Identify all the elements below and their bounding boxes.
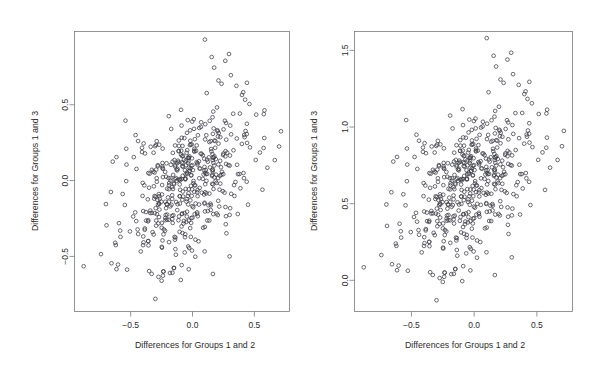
data-points-left [82,38,283,301]
data-point [149,145,153,149]
data-point [562,129,566,133]
data-point [262,112,266,116]
data-point [258,151,262,155]
data-point [464,252,468,256]
x-axis-ticks-left [131,312,255,317]
data-point [464,136,468,140]
data-point [478,133,482,137]
data-point [495,146,499,150]
data-point [544,146,548,150]
data-point [485,36,489,40]
x-tick-label: 0.5 [248,320,260,330]
data-point [167,114,171,118]
data-point [188,139,192,143]
data-point [201,177,205,181]
plot-frame-left [75,32,290,312]
data-point [188,226,192,230]
data-point [124,179,128,183]
data-point [507,232,511,236]
data-point [493,115,497,119]
data-point [238,112,242,116]
y-tick-label: 0.5 [60,99,70,111]
data-point [111,160,115,164]
data-point [395,244,399,248]
data-point [490,118,494,122]
data-point [235,137,239,141]
y-axis-ticks-right [350,50,355,280]
data-point [234,180,238,184]
data-point [435,207,439,211]
data-point [180,124,184,128]
data-point [134,219,138,223]
data-point [517,83,521,87]
data-point [537,112,541,116]
data-point [441,280,445,284]
data-point [142,142,146,146]
data-point [417,228,421,232]
data-point [125,268,129,272]
data-point [203,138,207,142]
data-point [530,101,534,105]
data-point [493,132,497,136]
data-point [461,123,465,127]
y-axis-title-left: Differences for Groups 1 and 3 [30,111,40,231]
scatter-panel-right: −0.50.00.5 0.00.51.01.5 Differences for … [295,0,590,377]
data-point [435,224,439,228]
data-point [436,180,440,184]
data-point [161,274,165,278]
scatter-plot-left: −0.50.00.5 −0.50.00.5 Differences for Gr… [0,0,295,377]
data-point [225,231,229,235]
data-point [545,136,549,140]
data-point [228,206,232,210]
data-point [235,84,239,88]
data-point [203,165,207,169]
data-point [516,180,520,184]
data-point [197,239,201,243]
data-point [134,133,138,137]
data-point [545,108,549,112]
data-point [263,109,267,113]
data-point [462,144,466,148]
data-point [147,269,151,273]
data-points-right [362,36,566,302]
data-point [486,179,490,183]
data-point [166,196,170,200]
data-point [471,236,475,240]
data-point [478,240,482,244]
data-point [167,240,171,244]
data-point [136,139,140,143]
data-point [186,203,190,207]
data-point [455,143,459,147]
data-point [240,142,244,146]
data-point [494,187,498,191]
data-point [152,151,156,155]
data-point [245,81,249,85]
data-point [125,163,129,167]
data-point [556,158,560,162]
data-point [155,176,159,180]
data-point [154,206,158,210]
data-point [442,239,446,243]
data-point [518,163,522,167]
data-point [485,137,489,141]
data-point [141,235,145,239]
data-point [506,206,510,210]
data-point [417,233,421,237]
data-point [442,183,446,187]
data-point [481,120,485,124]
data-point [427,198,431,202]
figure-canvas: −0.50.00.5 −0.50.00.5 Differences for Gr… [0,0,590,377]
data-point [543,188,547,192]
data-point [428,244,432,248]
data-point [121,192,125,196]
data-point [254,158,258,162]
data-point [470,227,474,231]
data-point [192,127,196,131]
data-point [471,222,475,226]
x-tick-label: 0.0 [468,320,480,330]
data-point [243,98,247,102]
y-tick-label: 0.5 [340,198,350,210]
data-point [232,148,236,152]
data-point [171,173,175,177]
data-point [216,135,220,139]
